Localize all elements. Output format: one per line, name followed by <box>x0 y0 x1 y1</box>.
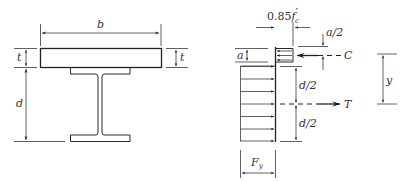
t-left-label: t <box>17 51 22 64</box>
a-half-label: a/2 <box>326 26 343 39</box>
stress-diagram: 0.85f′c a a/2 C d/2 d/2 <box>235 6 397 178</box>
d-half-lower-label: d/2 <box>299 117 317 130</box>
cross-section: b t t d <box>14 18 188 142</box>
d-half-upper-label: d/2 <box>299 79 317 92</box>
compression-force-label: C <box>344 49 353 62</box>
a-label: a <box>237 49 244 62</box>
concrete-stress-label: 0.85f′c <box>267 6 299 25</box>
lever-arm-label: y <box>385 74 393 87</box>
steel-i-beam <box>71 68 131 142</box>
tension-force-label: T <box>344 98 353 111</box>
d-label: d <box>16 97 23 110</box>
concrete-slab <box>41 49 162 68</box>
t-right-label: t <box>180 51 185 64</box>
b-label: b <box>97 18 104 31</box>
composite-beam-diagram: b t t d 0.85f′c a <box>0 0 410 181</box>
steel-yield-label: Fy <box>250 156 264 170</box>
